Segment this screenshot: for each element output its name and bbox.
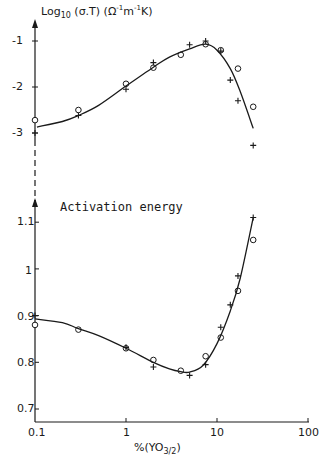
upper-y-axis-label: Log10 (σ.T) (Ω-1m-1K) (41, 4, 153, 20)
lower-ytick-0.7: 0.7 (17, 402, 35, 415)
xtick-1: 1 (123, 426, 130, 439)
upper-ytick-m2: -2 (12, 80, 23, 93)
lower-cross-marker (187, 372, 193, 378)
upper-circle-marker (76, 107, 82, 113)
upper-fit-curve (37, 44, 253, 128)
upper-axis-arrow-icon (32, 19, 38, 28)
upper-cross-marker (235, 98, 241, 104)
plot-canvas (0, 0, 330, 460)
lower-circle-marker (250, 237, 256, 243)
xtick-100: 100 (298, 426, 319, 439)
lower-ytick-1.1: 1.1 (17, 215, 35, 228)
lower-ytick-0.9: 0.9 (17, 310, 35, 323)
upper-circle-marker (235, 66, 241, 72)
upper-cross-marker (227, 77, 233, 83)
upper-cross-marker (32, 130, 38, 136)
xtick-10: 10 (210, 426, 224, 439)
lower-fit-curve (35, 218, 253, 373)
lower-axis-arrow-icon (32, 198, 38, 207)
upper-cross-marker (187, 42, 193, 48)
upper-ytick-m1: -1 (12, 34, 23, 47)
lower-ytick-0.8: 0.8 (17, 356, 35, 369)
upper-circle-marker (32, 117, 38, 123)
upper-ytick-m3: -3 (12, 126, 23, 139)
upper-circle-marker (250, 104, 256, 110)
chart-figure: Log10 (σ.T) (Ω-1m-1K) Activation energy … (0, 0, 330, 460)
upper-cross-marker (150, 60, 156, 66)
x-axis-label: %(YO3/2) (134, 441, 181, 456)
upper-cross-marker (250, 142, 256, 148)
lower-circle-marker (203, 353, 209, 359)
lower-ytick-1: 1 (25, 264, 32, 277)
xtick-0.1: 0.1 (28, 426, 46, 439)
lower-cross-marker (150, 364, 156, 370)
lower-chart-title: Activation energy (60, 200, 183, 214)
